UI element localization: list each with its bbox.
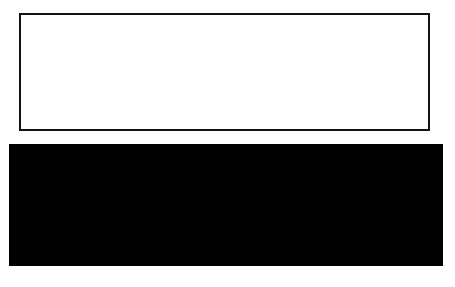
diffraction-frame <box>9 144 443 266</box>
tilings-frame <box>19 13 430 131</box>
